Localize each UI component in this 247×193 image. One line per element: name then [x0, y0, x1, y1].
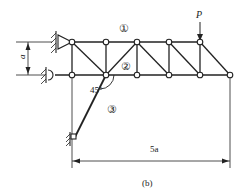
- height-dim-label: a: [17, 54, 27, 59]
- member-label-1: ①: [119, 22, 129, 34]
- node: [197, 39, 203, 45]
- diagonal-member: [200, 42, 230, 75]
- diagonal-member: [169, 42, 200, 75]
- height-arrow-top: [26, 43, 31, 50]
- truss-diagram: P a 5a 45° ① ② ③ (b): [0, 0, 247, 193]
- height-arrow-bottom: [26, 67, 31, 74]
- member-label-2: ②: [121, 60, 131, 72]
- load-label: P: [195, 9, 202, 20]
- node: [103, 39, 109, 45]
- fixed-support-node: [71, 134, 76, 139]
- arrowheads: [26, 34, 230, 164]
- span-dim-label: 5a: [150, 144, 159, 154]
- node: [166, 72, 172, 78]
- diagonal-member: [72, 42, 106, 75]
- roller-support-icon: [48, 70, 53, 80]
- node: [69, 72, 75, 78]
- member-label-3: ③: [107, 103, 117, 115]
- node: [134, 72, 140, 78]
- node: [103, 72, 109, 78]
- node: [227, 72, 233, 78]
- node: [69, 39, 75, 45]
- node: [134, 39, 140, 45]
- figure-caption: (b): [142, 178, 153, 188]
- span-arrow-right: [222, 159, 229, 164]
- span-arrow-left: [73, 159, 80, 164]
- angle-label: 45°: [90, 85, 103, 95]
- diagonal-member: [137, 42, 169, 75]
- node: [197, 72, 203, 78]
- node: [166, 39, 172, 45]
